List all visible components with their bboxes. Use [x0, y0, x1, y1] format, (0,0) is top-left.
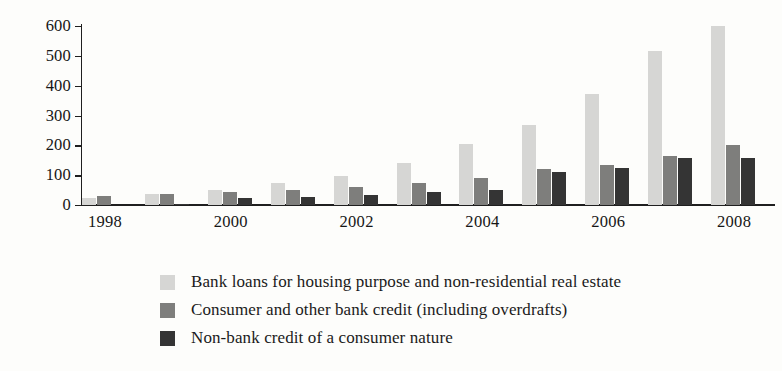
bar: [678, 158, 692, 205]
bar: [223, 192, 237, 205]
y-tick-label: 400: [46, 76, 71, 96]
bar: [726, 145, 740, 205]
bar: [663, 156, 677, 205]
y-tick-label: 200: [46, 135, 71, 155]
bar-group: [459, 26, 522, 205]
bar: [349, 187, 363, 205]
bar-groups: [82, 26, 774, 205]
bar: [175, 204, 189, 205]
bar: [97, 196, 111, 205]
y-tick-mark: [75, 26, 82, 27]
bar: [522, 125, 536, 205]
y-tick-label: 500: [46, 46, 71, 66]
bar: [145, 194, 159, 205]
bar: [648, 51, 662, 205]
bar: [364, 195, 378, 205]
bar: [474, 178, 488, 205]
y-tick-label: 600: [46, 16, 71, 36]
x-axis-label: 2004: [465, 212, 499, 232]
bar: [537, 169, 551, 205]
y-tick-mark: [75, 175, 82, 176]
bar: [427, 192, 441, 205]
legend-item: Non-bank credit of a consumer nature: [160, 324, 621, 352]
legend-swatch-icon: [160, 331, 175, 346]
x-axis-label: 2000: [214, 212, 248, 232]
x-axis-label: 2002: [340, 212, 374, 232]
x-axis-label: 2008: [717, 212, 751, 232]
bar-group: [397, 26, 460, 205]
legend-label: Non-bank credit of a consumer nature: [191, 328, 453, 348]
x-axis-label: 1998: [88, 212, 122, 232]
x-axis-label: 2006: [591, 212, 625, 232]
bar-group: [145, 26, 208, 205]
bar-group: [82, 26, 145, 205]
bar-group: [334, 26, 397, 205]
bar: [301, 197, 315, 205]
legend-item: Consumer and other bank credit (includin…: [160, 296, 621, 324]
chart-legend: Bank loans for housing purpose and non-r…: [160, 268, 621, 352]
y-tick-mark: [75, 205, 82, 206]
bar: [552, 172, 566, 205]
x-axis-labels: 199820002002200420062008: [82, 212, 774, 238]
bar-group: [208, 26, 271, 205]
bar-chart: 0100200300400500600 19982000200220042006…: [0, 0, 782, 371]
bar: [334, 176, 348, 205]
bar: [741, 158, 755, 205]
bar: [711, 26, 725, 205]
bar: [82, 198, 96, 205]
y-tick-mark: [75, 86, 82, 87]
bar-group: [522, 26, 585, 205]
bar: [397, 163, 411, 205]
bar: [271, 183, 285, 205]
legend-swatch-icon: [160, 303, 175, 318]
legend-swatch-icon: [160, 275, 175, 290]
legend-item: Bank loans for housing purpose and non-r…: [160, 268, 621, 296]
y-tick-mark: [75, 145, 82, 146]
bar: [459, 144, 473, 205]
bar-group: [585, 26, 648, 205]
y-tick-mark: [75, 116, 82, 117]
bar: [412, 183, 426, 205]
bar: [208, 190, 222, 206]
y-tick-label: 0: [63, 195, 71, 215]
bar: [615, 168, 629, 205]
bar-group: [711, 26, 774, 205]
bar: [238, 198, 252, 205]
bar-group: [648, 26, 711, 205]
plot-area: 0100200300400500600: [82, 26, 774, 205]
bar: [489, 190, 503, 205]
y-tick-label: 300: [46, 106, 71, 126]
bar: [600, 165, 614, 205]
bar: [286, 190, 300, 206]
bar: [160, 194, 174, 205]
bar-group: [271, 26, 334, 205]
y-tick-mark: [75, 56, 82, 57]
bar: [585, 94, 599, 205]
legend-label: Consumer and other bank credit (includin…: [191, 300, 567, 320]
legend-label: Bank loans for housing purpose and non-r…: [191, 272, 621, 292]
y-tick-label: 100: [46, 165, 71, 185]
